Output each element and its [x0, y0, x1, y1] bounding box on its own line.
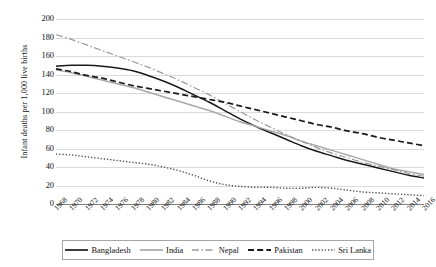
y-tick-label: 20	[20, 182, 54, 190]
legend-swatch	[140, 246, 163, 254]
legend-swatch	[248, 246, 271, 254]
y-tick-label: 100	[20, 108, 54, 116]
legend-label: Bangladesh	[92, 246, 131, 255]
legend-swatch	[192, 246, 215, 254]
series-svg	[56, 19, 424, 204]
series-layer	[56, 19, 424, 204]
y-tick-label: 160	[20, 52, 54, 60]
y-tick-label: 40	[20, 163, 54, 171]
legend-label: India	[166, 246, 183, 255]
series-line-india	[56, 70, 424, 175]
y-tick-label: 120	[20, 89, 54, 97]
y-tick-label: 0	[20, 200, 54, 208]
chart-figure: Infant deaths per 1,000 live births 0204…	[0, 0, 436, 267]
y-tick-label: 60	[20, 145, 54, 153]
y-tick-label: 80	[20, 126, 54, 134]
legend-item-nepal[interactable]: Nepal	[192, 246, 239, 255]
legend-item-sri-lanka[interactable]: Sri Lanka	[312, 246, 371, 255]
series-line-sri-lanka	[56, 154, 424, 196]
legend-item-pakistan[interactable]: Pakistan	[248, 246, 303, 255]
legend-swatch	[65, 246, 88, 254]
y-tick-label: 140	[20, 71, 54, 79]
legend-item-bangladesh[interactable]: Bangladesh	[65, 246, 131, 255]
legend-label: Sri Lanka	[338, 246, 371, 255]
series-line-pakistan	[56, 69, 424, 146]
chart-legend: BangladeshIndiaNepalPakistanSri Lanka	[62, 240, 374, 260]
legend-item-india[interactable]: India	[140, 246, 184, 255]
x-axis-tick-labels: 1968197019721974197619781980198219841986…	[56, 206, 424, 240]
legend-label: Nepal	[219, 246, 239, 255]
legend-swatch	[312, 246, 335, 254]
y-tick-label: 200	[20, 15, 54, 23]
y-tick-label: 180	[20, 34, 54, 42]
plot-area	[56, 19, 424, 204]
legend-label: Pakistan	[274, 246, 302, 255]
